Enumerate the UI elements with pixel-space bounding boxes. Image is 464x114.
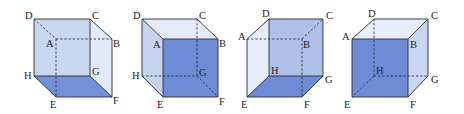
- vertex-label-G: G: [325, 74, 333, 85]
- vertex-label-C: C: [199, 10, 206, 21]
- vertex-label-F: F: [113, 95, 119, 106]
- cube-4: A D C B H G E F: [342, 8, 439, 110]
- vertex-label-H: H: [271, 65, 279, 76]
- vertex-label-E: E: [50, 99, 56, 110]
- vertex-label-E: E: [344, 99, 350, 110]
- vertex-label-C: C: [326, 10, 333, 21]
- cube-3: A D C B H G E F: [238, 8, 333, 110]
- vertex-label-H: H: [132, 70, 140, 81]
- vertex-label-F: F: [304, 99, 310, 110]
- cube-1: D C A B H G E F: [24, 10, 120, 110]
- vertex-label-A: A: [153, 39, 161, 50]
- vertex-label-A: A: [238, 31, 246, 42]
- vertex-label-B: B: [113, 38, 120, 49]
- vertex-label-G: G: [199, 67, 207, 78]
- vertex-label-A: A: [342, 31, 350, 42]
- vertex-label-F: F: [410, 99, 416, 110]
- vertex-label-E: E: [157, 99, 163, 110]
- vertex-label-H: H: [24, 70, 32, 81]
- face-DCGH: [34, 19, 90, 76]
- vertex-label-E: E: [241, 99, 247, 110]
- vertex-label-D: D: [25, 10, 33, 21]
- vertex-label-D: D: [133, 10, 141, 21]
- vertex-label-D: D: [262, 8, 270, 19]
- vertex-label-H: H: [376, 65, 384, 76]
- vertex-label-G: G: [431, 74, 439, 85]
- vertex-label-B: B: [219, 38, 226, 49]
- vertex-label-B: B: [410, 39, 417, 50]
- vertex-label-A: A: [46, 38, 54, 49]
- vertex-label-G: G: [92, 66, 100, 77]
- vertex-label-D: D: [368, 8, 376, 19]
- vertex-label-C: C: [431, 10, 438, 21]
- cube-2: D C A B H G E F: [132, 10, 226, 110]
- vertex-label-B: B: [303, 39, 310, 50]
- vertex-label-C: C: [92, 10, 99, 21]
- vertex-label-F: F: [219, 96, 225, 107]
- cubes-figure: D C A B H G E F D C A B H G E F: [0, 0, 464, 114]
